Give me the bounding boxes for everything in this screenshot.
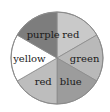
sector-label: red [35, 76, 53, 87]
sector-label: yellow [12, 53, 46, 64]
sector-label: purple [27, 29, 60, 40]
sector-label: blue [60, 76, 82, 87]
spinner-wheel: redgreenblueredyellowpurple [0, 0, 110, 112]
sector-label: green [70, 53, 100, 64]
sector-label: red [62, 29, 80, 40]
